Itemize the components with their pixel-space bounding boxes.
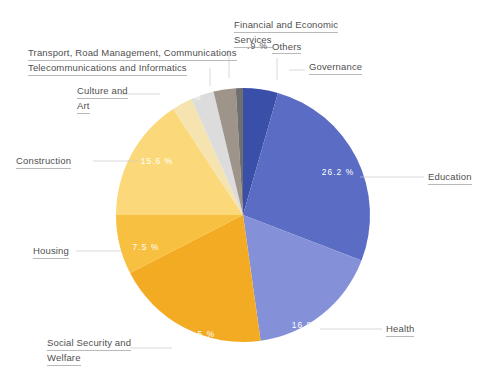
label-transport[interactable]: Transport, Road Management, Communicatio…: [28, 46, 237, 76]
label-others[interactable]: Others: [272, 41, 301, 54]
pie-chart-figure: 4.4 % 26.2 % 16.8 % 19.5 % 7.5 % 15.6 % …: [0, 0, 498, 386]
pct-culture-art: 2.6 %: [175, 92, 202, 102]
label-construction[interactable]: Construction: [16, 154, 71, 169]
label-social-security-line2: Welfare: [47, 351, 81, 366]
label-culture-art-line1: Culture and: [77, 84, 128, 99]
pct-construction: 15.6 %: [141, 156, 174, 166]
pct-social-security: 19.5 %: [183, 329, 216, 339]
label-housing-text: Housing: [33, 244, 69, 259]
label-culture-art-line2: Art: [77, 99, 90, 114]
label-financial-line1: Financial and Economic: [234, 18, 338, 33]
label-transport-line1: Transport, Road Management, Communicatio…: [28, 46, 237, 61]
pct-education: 26.2 %: [322, 167, 355, 177]
label-others-text: Others: [272, 41, 301, 54]
label-housing[interactable]: Housing: [33, 244, 69, 259]
label-construction-text: Construction: [16, 154, 71, 169]
label-governance-text: Governance: [309, 60, 362, 75]
label-transport-line2: Telecommunications and Informatics: [28, 61, 187, 76]
label-health[interactable]: Health: [386, 322, 414, 337]
pct-housing: 7.5 %: [133, 242, 160, 252]
pct-others: .9 %: [247, 41, 268, 51]
pct-health: 16.8 %: [292, 320, 325, 330]
pie-slices: [116, 88, 370, 342]
label-governance[interactable]: Governance: [309, 60, 362, 75]
label-education-text: Education: [428, 170, 472, 185]
pct-governance: 4.4 %: [268, 83, 295, 93]
label-education[interactable]: Education: [428, 170, 472, 185]
label-social-security[interactable]: Social Security and Welfare: [47, 336, 131, 366]
label-health-text: Health: [386, 322, 414, 337]
label-culture-art[interactable]: Culture and Art: [77, 84, 128, 114]
label-social-security-line1: Social Security and: [47, 336, 131, 351]
